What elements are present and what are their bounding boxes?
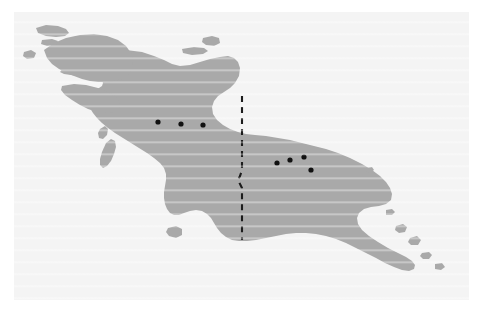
site-west-3[interactable] bbox=[200, 122, 205, 127]
kofiau-island bbox=[23, 50, 36, 59]
site-west-2[interactable] bbox=[178, 121, 183, 126]
biak-island bbox=[202, 36, 220, 46]
site-east-4[interactable] bbox=[308, 167, 313, 172]
map-panel bbox=[14, 12, 469, 300]
trobriand-island bbox=[386, 209, 395, 215]
dolak-island bbox=[166, 226, 182, 238]
misool-island bbox=[100, 139, 116, 168]
site-east-3[interactable] bbox=[301, 154, 306, 159]
new-guinea-mainland bbox=[60, 50, 415, 271]
site-west-1[interactable] bbox=[155, 119, 160, 124]
louisiade-island-2 bbox=[435, 263, 445, 270]
map-figure bbox=[0, 0, 485, 319]
batanta-island bbox=[41, 39, 58, 46]
dentrecasteaux-island-2 bbox=[408, 236, 421, 245]
landmass-group bbox=[23, 25, 445, 271]
dentrecasteaux-island-1 bbox=[395, 224, 407, 233]
site-east-1[interactable] bbox=[274, 160, 279, 165]
map-canvas[interactable] bbox=[14, 12, 469, 300]
site-east-2[interactable] bbox=[287, 157, 292, 162]
louisiade-island-1 bbox=[420, 252, 432, 259]
yapen-island bbox=[182, 47, 208, 55]
waigeo-island bbox=[36, 25, 69, 37]
salawati-island bbox=[98, 126, 108, 139]
